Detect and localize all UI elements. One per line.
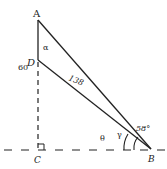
- gamma-label: γ: [117, 130, 122, 139]
- point-c-label: C: [34, 155, 41, 165]
- b-angle-label: 58°: [136, 124, 150, 133]
- right-angle-marker: [38, 144, 44, 150]
- triangle-diagram: A D C B 60 138 α γ θ 58°: [0, 0, 167, 169]
- point-a-label: A: [32, 8, 41, 19]
- point-b-label: B: [147, 154, 155, 164]
- theta-label: θ: [100, 134, 105, 143]
- segment-ab: [38, 20, 151, 149]
- theta-arc: [124, 134, 128, 150]
- alpha-label: α: [43, 43, 49, 52]
- segment-ad-length: 60: [18, 63, 28, 72]
- segment-db: [38, 60, 151, 149]
